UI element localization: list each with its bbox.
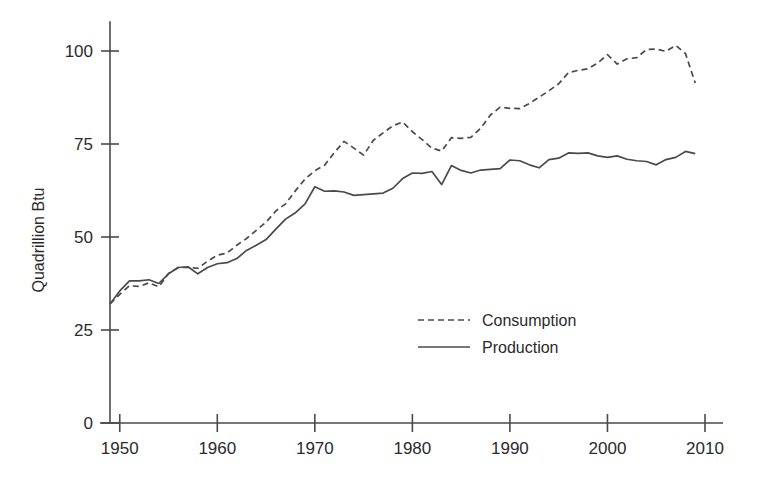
energy-line-chart: 0255075100 1950196019701980199020002010 … — [0, 0, 782, 489]
series-line-consumption — [110, 45, 695, 304]
y-tick-label: 50 — [74, 228, 93, 247]
x-tick-label: 1960 — [198, 439, 236, 458]
series-line-production — [110, 151, 695, 304]
x-tick-label: 1970 — [296, 439, 334, 458]
x-axis: 1950196019701980199020002010 — [100, 414, 724, 458]
x-tick-label: 2010 — [686, 439, 724, 458]
legend-label-consumption: Consumption — [482, 312, 576, 329]
x-axis-ticks: 1950196019701980199020002010 — [101, 414, 724, 458]
y-axis-title: Quadrillion Btu — [30, 188, 47, 293]
x-tick-label: 1950 — [101, 439, 139, 458]
x-tick-label: 1990 — [491, 439, 529, 458]
x-tick-label: 1980 — [393, 439, 431, 458]
y-tick-label: 25 — [74, 321, 93, 340]
y-axis: 0255075100 — [65, 21, 119, 433]
chart-canvas: 0255075100 1950196019701980199020002010 … — [0, 0, 782, 489]
chart-legend: ConsumptionProduction — [418, 312, 576, 356]
y-tick-label: 100 — [65, 42, 93, 61]
data-series-group — [110, 45, 695, 304]
y-axis-ticks: 0255075100 — [65, 42, 119, 433]
y-tick-label: 75 — [74, 135, 93, 154]
x-tick-label: 2000 — [589, 439, 627, 458]
y-tick-label: 0 — [84, 414, 93, 433]
legend-label-production: Production — [482, 339, 559, 356]
